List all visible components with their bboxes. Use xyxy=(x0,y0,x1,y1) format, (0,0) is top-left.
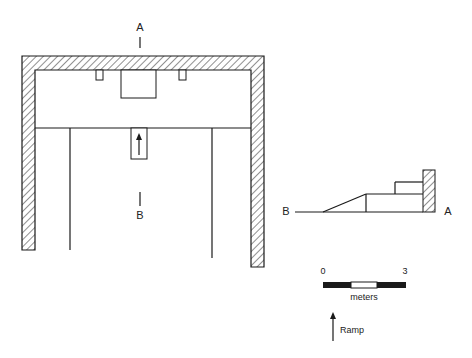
scale-segment-middle xyxy=(351,282,377,288)
section-label-b: B xyxy=(136,209,143,221)
legend-ramp: Ramp xyxy=(330,312,364,341)
niche-right xyxy=(179,70,186,80)
section-wall-hatched xyxy=(423,170,435,212)
arrow-head-icon xyxy=(330,312,336,319)
niche-left xyxy=(96,70,103,80)
architectural-drawing: A B B A 0 3 meters Ramp xyxy=(0,0,472,358)
platform xyxy=(121,70,156,98)
scale-unit: meters xyxy=(350,292,378,302)
legend-ramp-label: Ramp xyxy=(340,325,364,335)
ramp-slope xyxy=(323,194,366,212)
scale-start: 0 xyxy=(320,266,325,276)
scale-bar: 0 3 meters xyxy=(320,266,407,302)
scale-segment-right xyxy=(377,282,406,288)
floor-plan: A B xyxy=(22,21,264,267)
section-label-right: A xyxy=(444,205,452,217)
section-label-left: B xyxy=(282,205,289,217)
scale-segment-left xyxy=(323,282,351,288)
section-profile: B A xyxy=(282,170,452,217)
scale-end: 3 xyxy=(402,266,407,276)
section-label-a: A xyxy=(136,21,144,33)
